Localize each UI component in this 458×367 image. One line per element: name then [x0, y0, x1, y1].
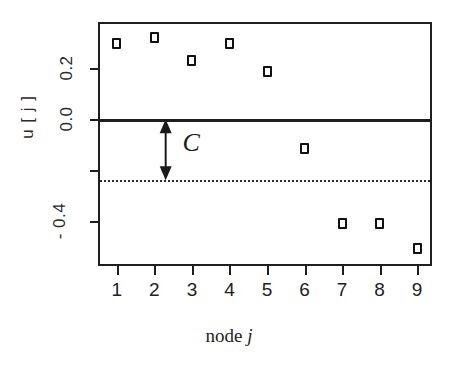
x-axis-tick — [417, 264, 419, 275]
x-axis-tick — [117, 264, 119, 275]
x-axis-tick — [380, 264, 382, 275]
data-point-marker — [413, 243, 422, 254]
x-axis-tick — [229, 264, 231, 275]
zero-line — [100, 119, 430, 122]
y-axis-tick — [90, 119, 100, 121]
data-point-marker — [263, 66, 272, 77]
x-axis-tick-label: 7 — [337, 279, 348, 301]
x-axis-tick-label: 9 — [412, 279, 423, 301]
x-axis-title: node j — [0, 325, 458, 347]
x-axis-tick-label: 4 — [224, 279, 235, 301]
data-point-marker — [300, 143, 309, 154]
data-point-marker — [225, 38, 234, 49]
y-axis-title: u [ j ] — [18, 95, 42, 139]
y-axis-tick — [90, 221, 100, 223]
plot-frame: 0.20.0- 0.4123456789C — [98, 22, 432, 266]
y-axis-tick-label: 0.2 — [56, 56, 76, 81]
x-axis-title-text: node — [206, 325, 243, 346]
data-point-marker — [375, 218, 384, 229]
data-point-marker — [338, 218, 347, 229]
figure-scatter-plot: u [ j ] 0.20.0- 0.4123456789C node j — [0, 0, 458, 367]
x-axis-tick-label: 5 — [262, 279, 273, 301]
x-axis-tick — [305, 264, 307, 275]
x-axis-tick — [154, 264, 156, 275]
plot-area: 0.20.0- 0.4123456789C — [100, 24, 430, 264]
x-axis-tick-label: 3 — [187, 279, 198, 301]
y-axis-tick — [90, 170, 100, 172]
x-axis-tick-label: 6 — [299, 279, 310, 301]
x-axis-tick — [342, 264, 344, 275]
y-axis-tick — [90, 68, 100, 70]
c-gap-arrow-icon — [100, 24, 434, 268]
threshold-line — [100, 180, 430, 182]
data-point-marker — [187, 55, 196, 66]
x-axis-title-variable: j — [247, 325, 252, 346]
data-point-marker — [112, 38, 121, 49]
data-point-marker — [150, 32, 159, 43]
y-axis-tick-label: 0.0 — [56, 107, 76, 132]
x-axis-tick — [267, 264, 269, 275]
x-axis-tick — [192, 264, 194, 275]
c-gap-label: C — [183, 128, 200, 158]
x-axis-tick-label: 1 — [112, 279, 123, 301]
y-axis-tick-label: - 0.4 — [51, 203, 71, 240]
x-axis-tick-label: 8 — [374, 279, 385, 301]
x-axis-tick-label: 2 — [149, 279, 160, 301]
